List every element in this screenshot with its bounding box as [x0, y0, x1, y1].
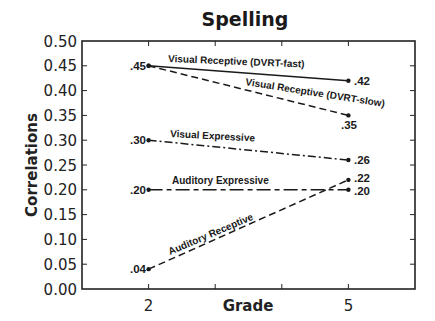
data-point — [346, 188, 350, 192]
y-axis-label: Correlations — [23, 113, 41, 217]
value-label-grade5-035: .35 — [341, 119, 358, 131]
series-label-visual-receptive-fast: Visual Receptive (DVRT-fast) — [168, 53, 305, 69]
y-tick-label: 0.00 — [44, 281, 77, 299]
y-tick-label: 0.15 — [44, 206, 77, 224]
series-label-auditory-receptive: Auditory Receptive — [166, 211, 255, 257]
value-label-grade5-042: .42 — [354, 75, 370, 87]
x-tick-label: 2 — [144, 297, 154, 315]
data-point — [346, 78, 350, 82]
y-tick-label: 0.20 — [44, 181, 77, 199]
series-line-auditory-receptive — [149, 180, 349, 269]
x-axis-label: Grade — [223, 297, 274, 315]
value-label-grade5-022: .22 — [354, 172, 370, 184]
y-tick-label: 0.25 — [44, 157, 77, 175]
series-label-auditory-expressive: Auditory Expressive — [172, 175, 269, 186]
chart-title: Spelling — [202, 8, 289, 30]
value-label-grade2-030: .30 — [130, 134, 146, 146]
data-point — [146, 188, 150, 192]
series-label-visual-expressive: Visual Expressive — [170, 128, 256, 143]
spelling-correlation-chart: Spelling 0.000.050.100.150.200.250.300.3… — [0, 0, 435, 321]
value-label-grade5-020: .20 — [354, 185, 370, 197]
data-point — [146, 138, 150, 142]
y-tick-label: 0.05 — [44, 256, 77, 274]
series-line-visual-expressive — [149, 140, 349, 160]
value-label-grade2-045: .45 — [130, 60, 147, 72]
y-tick-label: 0.40 — [44, 82, 77, 100]
data-point — [346, 113, 350, 117]
y-tick-label: 0.45 — [44, 57, 77, 75]
value-label-grade5-026: .26 — [354, 154, 370, 166]
y-tick-label: 0.35 — [44, 107, 77, 125]
y-tick-label: 0.30 — [44, 132, 77, 150]
value-label-grade2-004: .04 — [130, 263, 147, 275]
data-point — [146, 267, 150, 271]
data-point — [346, 158, 350, 162]
y-tick-label: 0.50 — [44, 33, 77, 51]
x-tick-label: 5 — [344, 297, 354, 315]
value-label-grade2-020: .20 — [130, 184, 146, 196]
data-point — [146, 64, 150, 68]
y-tick-label: 0.10 — [44, 231, 77, 249]
data-point — [346, 178, 350, 182]
